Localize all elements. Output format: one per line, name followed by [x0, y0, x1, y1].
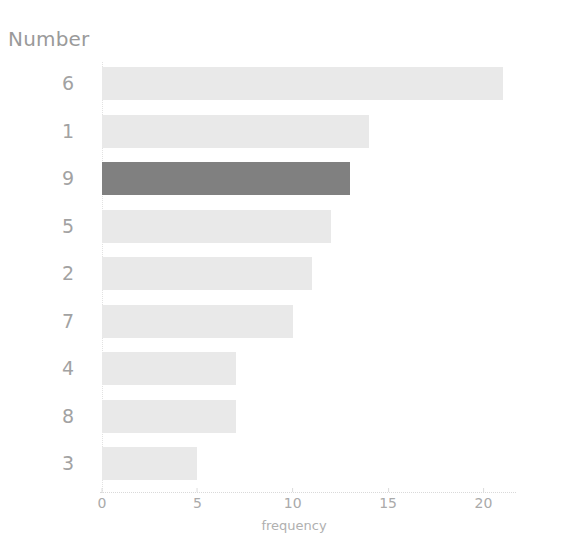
- bar-row: 1: [102, 115, 514, 148]
- x-tick-mark: [292, 488, 293, 492]
- bar-row: 5: [102, 210, 514, 243]
- bar-row: 4: [102, 352, 514, 385]
- x-tick-label: 15: [379, 494, 397, 511]
- x-tick-label: 5: [193, 494, 202, 511]
- x-tick-mark: [483, 488, 484, 492]
- category-label: 3: [14, 447, 74, 480]
- bar-row: 3: [102, 447, 514, 480]
- category-label: 2: [14, 257, 74, 290]
- x-tick-label: 20: [475, 494, 493, 511]
- x-tick-label: 10: [284, 494, 302, 511]
- bar[interactable]: [102, 447, 197, 480]
- bar-row: 8: [102, 400, 514, 433]
- bar-row: 6: [102, 67, 514, 100]
- bar[interactable]: [102, 162, 350, 195]
- x-tick-label: 0: [98, 494, 107, 511]
- category-label: 1: [14, 115, 74, 148]
- bar[interactable]: [102, 400, 236, 433]
- bar[interactable]: [102, 210, 331, 243]
- category-label: 8: [14, 400, 74, 433]
- bar-chart: Number 619527483 05101520 frequency: [0, 0, 569, 558]
- y-axis-title: Number: [8, 27, 90, 51]
- x-tick-mark: [197, 488, 198, 492]
- bar[interactable]: [102, 257, 312, 290]
- category-label: 5: [14, 210, 74, 243]
- x-tick-mark: [101, 488, 102, 492]
- x-axis-title: frequency: [261, 518, 326, 533]
- bar[interactable]: [102, 305, 293, 338]
- bar[interactable]: [102, 352, 236, 385]
- category-label: 7: [14, 305, 74, 338]
- plot-area: 619527483: [102, 62, 514, 494]
- bar-row: 9: [102, 162, 514, 195]
- bar[interactable]: [102, 115, 369, 148]
- bar-rows: 619527483: [102, 62, 514, 494]
- category-label: 4: [14, 352, 74, 385]
- bar-row: 2: [102, 257, 514, 290]
- category-label: 6: [14, 67, 74, 100]
- x-tick-mark: [388, 488, 389, 492]
- bar[interactable]: [102, 67, 503, 100]
- category-label: 9: [14, 162, 74, 195]
- bar-row: 7: [102, 305, 514, 338]
